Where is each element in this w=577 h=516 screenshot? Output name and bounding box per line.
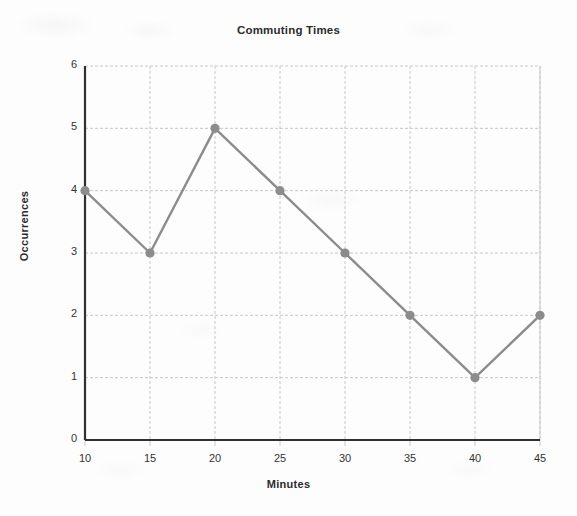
data-point-marker (340, 248, 349, 257)
data-point-marker (275, 186, 284, 195)
plot-area (0, 0, 577, 516)
y-axis-tick-label: 3 (53, 245, 77, 257)
x-axis-tick-label: 35 (390, 452, 430, 464)
x-axis-tick-label: 15 (130, 452, 170, 464)
x-axis-tick-label: 20 (195, 452, 235, 464)
x-axis-tick-label: 45 (520, 452, 560, 464)
y-axis-tick-label: 1 (53, 370, 77, 382)
chart-container: Commuting Times 0123456 1015202530354045… (0, 0, 577, 516)
x-axis-tick-label: 40 (455, 452, 495, 464)
x-axis-tick-label: 30 (325, 452, 365, 464)
y-axis-tick-label: 2 (53, 307, 77, 319)
data-point-marker (470, 373, 479, 382)
y-axis-tick-label: 4 (53, 183, 77, 195)
y-axis-tick-label: 6 (53, 58, 77, 70)
data-point-marker (80, 186, 89, 195)
y-axis-tick-label: 0 (53, 432, 77, 444)
data-point-marker (210, 124, 219, 133)
y-axis-title: Occurrences (18, 176, 30, 276)
y-axis-tick-label: 5 (53, 120, 77, 132)
data-point-marker (145, 248, 154, 257)
data-point-marker (405, 311, 414, 320)
x-axis-title: Minutes (0, 478, 577, 490)
x-axis-tick-label: 25 (260, 452, 300, 464)
x-axis-tick-label: 10 (65, 452, 105, 464)
data-point-marker (535, 311, 544, 320)
